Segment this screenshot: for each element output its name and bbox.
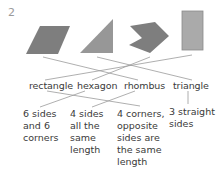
description-rhombus: 4 sides all the same length [70, 108, 103, 156]
desc-line: 4 sides [70, 108, 103, 120]
line-rectangle-shape-to-rectangle [45, 55, 192, 80]
hexagon-shape [129, 22, 169, 53]
desc-line: sides are [117, 132, 165, 144]
name-label-triangle: triangle [173, 80, 209, 91]
desc-line: 6 sides [23, 108, 59, 120]
line-rhombus-shape-to-rhombus [43, 57, 138, 80]
description-rectangle: 4 corners, opposite sides are the same l… [117, 108, 165, 168]
line-rectangle-to-desc [47, 91, 140, 106]
desc-line: and 6 [23, 120, 59, 132]
desc-line: all the [70, 120, 103, 132]
desc-line: the same [117, 144, 165, 156]
triangle-shape [80, 19, 113, 53]
name-label-rectangle: rectangle [29, 80, 73, 91]
description-hexagon: 6 sides and 6 corners [23, 108, 59, 144]
desc-line: same [70, 132, 103, 144]
desc-line: opposite [117, 120, 165, 132]
desc-line: sides [169, 118, 215, 130]
line-hexagon-shape-to-hexagon [92, 57, 150, 80]
desc-line: 4 corners, [117, 108, 165, 120]
name-label-rhombus: rhombus [124, 80, 165, 91]
name-label-hexagon: hexagon [77, 80, 117, 91]
desc-line: 3 straight [169, 106, 215, 118]
desc-line: length [70, 144, 103, 156]
desc-line: corners [23, 132, 59, 144]
rectangle-shape [182, 11, 203, 50]
description-triangle: 3 straight sides [169, 106, 215, 130]
rhombus-shape [26, 26, 70, 54]
matching-diagram [0, 0, 217, 186]
desc-line: length [117, 156, 165, 168]
